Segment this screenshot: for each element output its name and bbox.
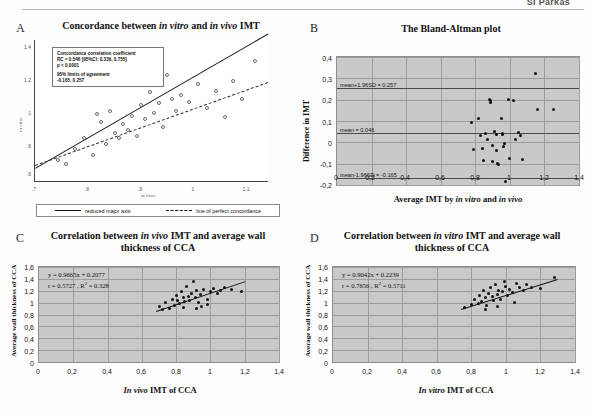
data-point: [91, 153, 95, 157]
data-point: [139, 103, 143, 107]
data-point: [482, 289, 485, 292]
gridline-vertical: [540, 267, 541, 362]
panel-d-letter: D: [310, 231, 319, 246]
data-point: [194, 296, 197, 299]
panel-b-y-tick-5: -0,1: [310, 161, 332, 168]
gridline-horizontal: [333, 303, 575, 304]
data-point: [82, 136, 86, 140]
panel-d-y-tick-0: 1,6: [310, 264, 328, 271]
data-point: [185, 285, 188, 288]
data-point: [522, 289, 525, 292]
data-point: [479, 134, 482, 137]
regression-line: [461, 279, 558, 310]
gridline-vertical: [441, 57, 442, 185]
panel-d-y-tick-7: 0,2: [310, 348, 328, 355]
data-point: [165, 73, 169, 77]
header-rule: [22, 9, 584, 10]
panel-d-x-tick-4: 0,8: [463, 368, 479, 375]
data-point: [513, 301, 516, 304]
panel-a-stat-line-5: -0.165, 0.257: [57, 78, 159, 84]
panel-a-letter: A: [16, 21, 25, 36]
data-point: [130, 114, 134, 118]
data-point: [491, 295, 494, 298]
data-point: [512, 99, 515, 102]
panel-b-y-tick-3: 0,1: [310, 119, 332, 126]
panel-d-title-italic: in vitro: [434, 230, 464, 241]
gridline-horizontal: [337, 164, 579, 165]
data-point: [64, 162, 68, 166]
panel-d-y-tick-5: 0,6: [310, 324, 328, 331]
panel-c-x-axis-label: In vivo IMT of CCA: [60, 385, 260, 395]
panel-c-correlation-stats: r = 0.5727 , R2 = 0.328: [48, 279, 172, 290]
panel-c-x-tick-0: 0: [30, 368, 46, 375]
data-point: [135, 134, 139, 138]
panel-c-y-tick-8: 0: [16, 360, 34, 367]
data-point: [174, 109, 178, 113]
data-point: [477, 117, 480, 120]
data-point: [168, 307, 171, 310]
panel-b-x-tick-7: 1,4: [571, 174, 587, 181]
data-point: [534, 72, 537, 75]
panel-a-title-mid: and: [189, 20, 210, 31]
panel-a-y-tick-2: 1: [18, 110, 31, 117]
panel-a-legend-item-1: line of perfect concordance: [166, 208, 261, 214]
panel-b-x-label-mid: and: [481, 194, 499, 204]
gridline-vertical: [406, 57, 407, 185]
panel-b-x-tick-4: 0,8: [467, 174, 483, 181]
panel-d-y-tick-4: 0,8: [310, 312, 328, 319]
panel-c-y-tick-4: 0,8: [16, 312, 34, 319]
data-point: [190, 292, 193, 295]
panel-a-legend-item-0: reduced major axis: [55, 208, 131, 214]
panel-d-x-tick-1: 0,2: [359, 368, 375, 375]
data-point: [473, 298, 476, 301]
panel-b-x-label-pre: Average IMT by: [394, 194, 456, 204]
data-point: [178, 302, 181, 305]
gridline-horizontal: [333, 350, 575, 351]
panel-c-y-tick-1: 1,4: [16, 276, 34, 283]
reference-line-0: [337, 88, 579, 89]
data-point: [99, 120, 103, 124]
data-point: [514, 138, 517, 141]
dashed-line-swatch-icon: [166, 210, 192, 211]
figure-page: SI Parkas A Concordance between in vitro…: [0, 0, 592, 416]
data-point: [485, 304, 488, 307]
data-point: [200, 305, 203, 308]
gridline-horizontal: [333, 326, 575, 327]
data-point: [188, 299, 191, 302]
data-point: [95, 112, 99, 116]
panel-d-x-tick-2: 0,4: [394, 368, 410, 375]
data-point: [494, 283, 497, 286]
panel-a-y-tick-4: .6: [18, 171, 31, 178]
panel-c-x-tick-3: 0,6: [133, 368, 149, 375]
data-point: [187, 100, 191, 104]
gridline-horizontal: [39, 338, 279, 339]
data-point: [536, 108, 539, 111]
panel-a-x-tick-1: .8: [79, 186, 95, 193]
panel-c-stats-r: r = 0.5727 , R: [48, 282, 85, 289]
data-point: [495, 133, 498, 136]
gridline-vertical: [475, 57, 476, 185]
panel-b-y-axis-label: Difference in IMT: [302, 100, 311, 162]
gridline-vertical: [575, 267, 576, 362]
gridline-vertical: [372, 57, 373, 185]
panel-d-y-tick-1: 1,4: [310, 276, 328, 283]
panel-a-x-tick-4: 1.1: [238, 186, 254, 193]
data-point: [219, 289, 222, 292]
data-point: [463, 306, 466, 309]
data-point: [196, 82, 200, 86]
gridline-horizontal: [39, 315, 279, 316]
panel-d-y-tick-8: 0: [310, 360, 328, 367]
panel-b-x-axis-label: Average IMT by in vitro and in vivo: [342, 194, 574, 204]
data-point: [240, 290, 243, 293]
panel-c-x-tick-4: 0,8: [168, 368, 184, 375]
panel-d-x-tick-5: 1: [498, 368, 514, 375]
data-point: [481, 147, 484, 150]
gridline-horizontal: [333, 267, 575, 268]
gridline-vertical: [176, 267, 177, 362]
data-point: [489, 101, 492, 104]
panel-d-title-pre: Correlation between: [344, 230, 434, 241]
data-point: [497, 163, 500, 166]
data-point: [503, 142, 506, 145]
gridline-horizontal: [333, 338, 575, 339]
panel-c-title-pre: Correlation between: [51, 230, 141, 241]
